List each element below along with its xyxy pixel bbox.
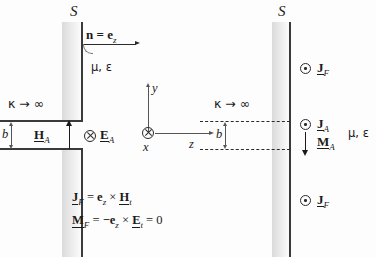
- figure-canvas: S n = ez μ, ε κ → ∞ b HA EA y x z JF =: [0, 0, 376, 257]
- axis-z-line: [155, 133, 211, 134]
- equation-2-lhs: M: [72, 214, 84, 228]
- equation-1-rhs-sub: z: [103, 197, 107, 207]
- axis-y-label: y: [152, 82, 158, 95]
- left-h-field-direction-arrow-head: [66, 120, 72, 126]
- normal-vector-label: n = ez: [86, 28, 116, 45]
- left-aperture-height-label: b: [2, 128, 8, 141]
- right-source-4-dot: [304, 199, 307, 202]
- left-aperture-dimension-arrow-bottom: [9, 145, 13, 149]
- right-source-2-dot: [304, 123, 307, 126]
- right-source-3-arrow-line: [305, 132, 306, 152]
- right-conductor-wall: [289, 22, 291, 257]
- right-aperture-top-dashed-line: [200, 121, 290, 122]
- right-source-4-label: JF: [317, 193, 329, 210]
- normal-vector-text: n = e: [86, 27, 113, 42]
- left-aperture-dimension-arrow-top: [9, 122, 13, 126]
- axis-y-arrow-head: [146, 83, 150, 87]
- equation-2-rhs-field-sub: t: [140, 220, 143, 230]
- left-h-field-symbol: H: [34, 128, 44, 142]
- equation-1-rhs-field: H: [119, 191, 129, 205]
- equation-current-density: JF = ez × Ht: [72, 191, 132, 207]
- axis-z-label: z: [189, 138, 194, 151]
- equation-1-rhs-field-sub: t: [129, 197, 132, 207]
- right-source-3-symbol: M: [317, 135, 329, 149]
- right-wall-shading: [272, 22, 289, 257]
- equation-2-rhs-sub: z: [115, 220, 119, 230]
- left-aperture-dimension-line: [11, 124, 12, 146]
- equation-2-tail: = 0: [146, 213, 162, 227]
- right-source-3-label: MA: [317, 135, 335, 152]
- left-surface-label: S: [70, 4, 78, 19]
- left-h-field-label: HA: [34, 128, 50, 145]
- equation-2-equals: =: [92, 213, 99, 227]
- equation-1-lhs-sub: F: [78, 197, 84, 207]
- right-source-3-subscript: A: [329, 142, 335, 152]
- right-source-3-arrow-head: [302, 150, 308, 156]
- right-angle-marker: [83, 44, 93, 54]
- right-medium-label: μ, ε: [348, 128, 369, 140]
- right-source-2-label: JA: [317, 117, 329, 134]
- equation-magnetic-current: MF = −ez × Et = 0: [72, 214, 163, 230]
- left-upper-conductor-wall: [81, 22, 83, 122]
- left-upper-wall-shading: [62, 22, 81, 122]
- normal-vector-subscript: z: [113, 35, 117, 45]
- left-h-field-subscript: A: [44, 135, 50, 145]
- right-source-1-subscript: F: [324, 68, 330, 78]
- axis-z-arrow-head: [209, 131, 214, 135]
- left-conductivity-label: κ → ∞: [8, 98, 44, 111]
- right-surface-label: S: [278, 4, 286, 19]
- right-source-4-subscript: F: [324, 200, 330, 210]
- normal-vector-arrow-head: [135, 41, 140, 45]
- equation-2-lhs-sub: F: [84, 220, 90, 230]
- equation-1-operator: ×: [109, 190, 116, 204]
- right-conductivity-label: κ → ∞: [214, 98, 250, 111]
- left-e-field-subscript: A: [109, 135, 115, 145]
- right-source-1-dot: [304, 67, 307, 70]
- axis-y-line: [148, 86, 149, 133]
- left-h-field-direction-arrow-line: [69, 125, 70, 149]
- right-source-1-label: JF: [317, 61, 329, 78]
- equation-2-operator: ×: [122, 213, 129, 227]
- left-medium-label: μ, ε: [91, 62, 112, 74]
- axis-x-label: x: [143, 141, 149, 154]
- right-aperture-dimension-arrow-top: [223, 122, 227, 126]
- right-source-2-subscript: A: [324, 124, 330, 134]
- left-e-field-label: EA: [100, 128, 114, 145]
- left-e-field-symbol: E: [100, 128, 109, 142]
- right-aperture-dimension-line: [225, 124, 226, 146]
- right-aperture-height-label: b: [216, 128, 222, 141]
- equation-2-rhs-unit: −e: [103, 213, 116, 227]
- right-aperture-dimension-arrow-bottom: [223, 145, 227, 149]
- right-aperture-bottom-dashed-line: [200, 149, 290, 150]
- equation-1-equals: =: [87, 190, 94, 204]
